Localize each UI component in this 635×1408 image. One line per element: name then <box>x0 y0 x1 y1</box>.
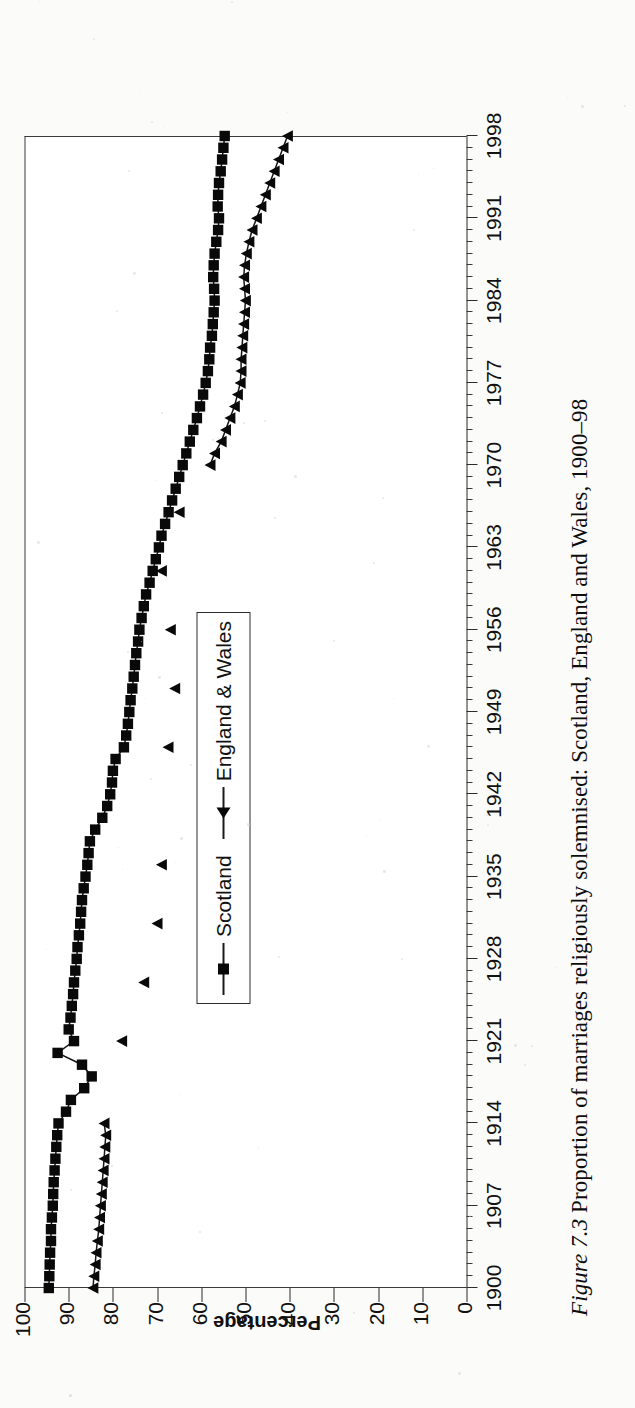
x-tick-label: 1921 <box>481 1001 505 1081</box>
scan-speck <box>158 676 161 679</box>
scan-speck <box>380 819 381 820</box>
y-tick <box>422 1288 423 1302</box>
x-tick-minor <box>466 946 472 947</box>
x-tick-major <box>466 876 477 877</box>
x-tick-label: 1949 <box>481 672 505 752</box>
scan-speck <box>333 640 335 642</box>
legend-label-england-wales: England & Wales <box>211 621 235 781</box>
x-tick-minor <box>466 370 472 371</box>
x-tick-minor <box>466 923 472 924</box>
scan-speck <box>499 713 501 715</box>
y-tick <box>157 1288 158 1302</box>
x-tick-minor <box>466 311 472 312</box>
x-tick-minor <box>466 993 472 994</box>
x-tick-minor <box>466 264 472 265</box>
legend: Scotland England & Wales <box>196 612 250 1004</box>
scan-speck <box>151 121 153 123</box>
y-tick <box>466 1288 467 1302</box>
scan-speck <box>401 958 403 960</box>
scan-speck <box>127 651 129 653</box>
x-tick-label: 1956 <box>481 590 505 670</box>
x-tick-minor <box>466 1017 472 1018</box>
legend-line-england-wales <box>222 787 224 839</box>
square-marker-icon <box>218 964 229 975</box>
x-tick-minor <box>466 182 472 183</box>
y-tick <box>289 1288 290 1302</box>
x-tick-label: 1998 <box>481 96 505 176</box>
y-tick-label: 10 <box>408 1302 432 1362</box>
x-tick-minor <box>466 429 472 430</box>
x-tick-label: 1963 <box>481 507 505 587</box>
x-tick-minor <box>466 241 472 242</box>
y-tick-label: 20 <box>364 1302 388 1362</box>
scan-speck <box>164 126 165 127</box>
x-tick-minor <box>466 746 472 747</box>
x-tick-minor <box>466 805 472 806</box>
x-tick-major <box>466 135 477 136</box>
y-tick-label: 50 <box>231 1302 255 1362</box>
x-tick-minor <box>466 1158 472 1159</box>
y-tick-label: 70 <box>143 1302 167 1362</box>
x-tick-label: 1914 <box>481 1083 505 1163</box>
x-tick-minor <box>466 1228 472 1229</box>
scan-speck <box>156 480 157 481</box>
x-tick-minor <box>466 170 472 171</box>
x-tick-minor <box>466 535 472 536</box>
scan-speck <box>87 931 88 932</box>
scan-speck <box>581 105 584 108</box>
x-axis-line <box>466 136 467 1288</box>
scan-speck <box>139 90 140 91</box>
x-tick-minor <box>466 511 472 512</box>
scan-speck <box>582 1284 584 1286</box>
y-tick <box>333 1288 334 1302</box>
x-tick-minor <box>466 1028 472 1029</box>
x-tick-minor <box>466 1264 472 1265</box>
x-tick-minor <box>466 323 472 324</box>
x-tick-minor <box>466 605 472 606</box>
scanned-page: Percentage 01020304050607080901001900190… <box>0 0 635 1408</box>
scan-speck <box>514 1044 517 1047</box>
x-tick-minor <box>466 864 472 865</box>
rotated-figure-frame: Percentage 01020304050607080901001900190… <box>0 0 635 1408</box>
figure-caption: Figure 7.3 Proportion of marriages relig… <box>565 26 594 1316</box>
x-tick-minor <box>466 829 472 830</box>
x-tick-minor <box>466 570 472 571</box>
x-tick-minor <box>466 664 472 665</box>
scan-speck <box>133 272 136 275</box>
x-tick-major <box>466 464 477 465</box>
x-tick-minor <box>466 1052 472 1053</box>
scan-speck <box>247 823 250 826</box>
x-tick-minor <box>466 1193 472 1194</box>
x-tick-major <box>466 1287 477 1288</box>
x-tick-minor <box>466 452 472 453</box>
x-tick-minor <box>466 1099 472 1100</box>
x-tick-minor <box>466 934 472 935</box>
scan-speck <box>556 967 557 968</box>
scan-speck <box>39 1 40 2</box>
scan-speck <box>294 475 297 478</box>
scan-speck <box>458 1372 461 1375</box>
x-tick-label: 1970 <box>481 425 505 505</box>
scan-speck <box>243 422 245 424</box>
x-tick-minor <box>466 229 472 230</box>
x-tick-major <box>466 1122 477 1123</box>
x-tick-minor <box>466 1181 472 1182</box>
scan-speck <box>69 1394 72 1397</box>
scan-speck <box>571 457 572 458</box>
x-tick-minor <box>466 253 472 254</box>
x-tick-minor <box>466 770 472 771</box>
x-tick-label: 1977 <box>481 343 505 423</box>
x-tick-label: 1928 <box>481 919 505 999</box>
x-tick-minor <box>466 911 472 912</box>
x-tick-minor <box>466 488 472 489</box>
figure-number: Figure 7.3 <box>566 1219 591 1316</box>
x-tick-minor <box>466 358 472 359</box>
x-tick-major <box>466 629 477 630</box>
legend-item-scotland: Scotland <box>211 855 235 995</box>
x-tick-minor <box>466 593 472 594</box>
x-tick-minor <box>466 288 472 289</box>
x-tick-major <box>466 546 477 547</box>
x-tick-minor <box>466 970 472 971</box>
x-tick-major <box>466 1040 477 1041</box>
x-tick-minor <box>466 640 472 641</box>
